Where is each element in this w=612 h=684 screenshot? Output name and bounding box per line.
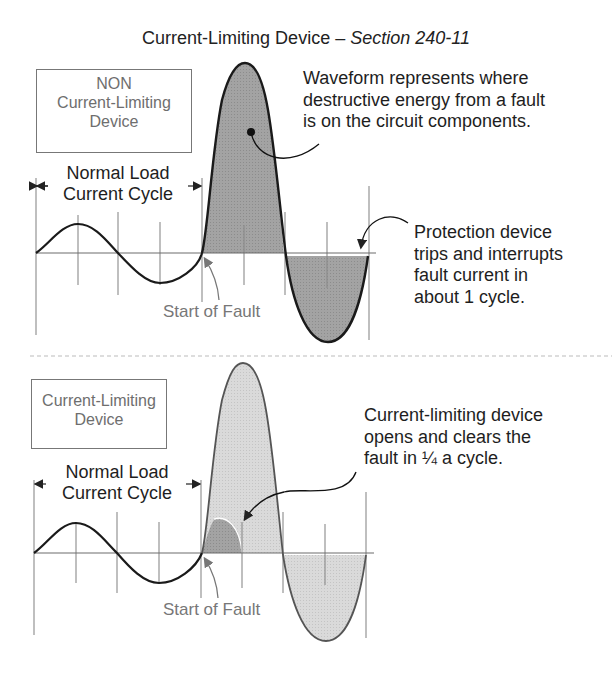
note-line: Current-limiting device — [364, 405, 543, 427]
top-trip-callout-arrow — [361, 217, 408, 247]
bottom-start-of-fault-label: Start of Fault — [163, 600, 260, 619]
note-line: opens and clears the — [364, 427, 543, 449]
normal-load-line: Normal Load — [47, 462, 187, 483]
normal-load-line: Normal Load — [48, 163, 188, 184]
device-box-line: NON — [37, 75, 191, 94]
note-line: destructive energy from a fault — [303, 90, 545, 112]
diagram-title: Current-Limiting Device – Section 240-11 — [0, 28, 612, 48]
device-box-line: Device — [32, 411, 166, 430]
note-line: Waveform represents where — [303, 68, 545, 90]
current-limiting-device-box: Current-Limiting Device — [31, 379, 167, 449]
title-main: Current-Limiting Device – — [142, 28, 350, 48]
device-box-line: Current-Limiting — [32, 392, 166, 411]
top-normal-load-label: Normal Load Current Cycle — [48, 163, 188, 204]
note-line: fault in ¼ a cycle. — [364, 448, 543, 470]
bottom-start-fault-arrow — [205, 559, 218, 598]
bottom-normal-load-label: Normal Load Current Cycle — [47, 462, 187, 503]
non-current-limiting-device-box: NON Current-Limiting Device — [36, 69, 192, 153]
title-section: Section 240-11 — [350, 28, 470, 48]
note-line: trips and interrupts — [414, 244, 563, 266]
protection-trip-note: Protection device trips and interrupts f… — [414, 222, 563, 308]
top-start-fault-arrow — [205, 259, 219, 300]
waveform-energy-note: Waveform represents where destructive en… — [303, 68, 545, 133]
top-start-of-fault-label: Start of Fault — [163, 302, 260, 321]
device-box-line: Device — [37, 113, 191, 132]
normal-load-line: Current Cycle — [48, 184, 188, 205]
current-limiting-clear-note: Current-limiting device opens and clears… — [364, 405, 543, 470]
normal-load-line: Current Cycle — [47, 483, 187, 504]
note-line: about 1 cycle. — [414, 287, 563, 309]
device-box-line: Current-Limiting — [37, 94, 191, 113]
note-line: is on the circuit components. — [303, 111, 545, 133]
note-line: fault current in — [414, 265, 563, 287]
note-line: Protection device — [414, 222, 563, 244]
